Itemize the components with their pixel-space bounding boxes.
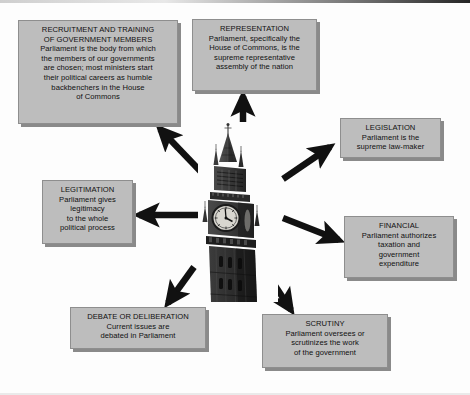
node-heading: RECRUITMENT AND TRAINING OF GOVERNMENT M…	[23, 25, 173, 44]
node-body: Parliament gives legitimacy to the whole…	[47, 195, 128, 233]
node-heading: LEGISLATION	[345, 123, 436, 133]
node-representation[interactable]: REPRESENTATION Parliament, specifically …	[192, 19, 317, 91]
big-ben-clock-tower-photo	[198, 122, 278, 302]
node-heading: FINANCIAL	[349, 221, 449, 231]
arrow-to-financial	[283, 218, 339, 240]
node-body: Parliament is the body from which the me…	[23, 44, 173, 102]
node-scrutiny[interactable]: SCRUTINY Parliament oversees or scrutini…	[262, 314, 388, 368]
node-heading: REPRESENTATION	[197, 24, 312, 34]
node-heading: LEGITIMATION	[47, 185, 128, 195]
node-legislation[interactable]: LEGISLATION Parliament is the supreme la…	[340, 118, 441, 158]
node-body: Parliament, specifically the House of Co…	[197, 34, 312, 72]
node-heading: SCRUTINY	[267, 319, 383, 329]
node-body: Parliament oversees or scrutinizes the w…	[267, 329, 383, 358]
node-body: Parliament is the supreme law-maker	[345, 133, 436, 152]
node-heading: DEBATE OR DELIBERATION	[75, 312, 201, 322]
node-financial[interactable]: FINANCIAL Parliament authorizes taxation…	[344, 216, 454, 278]
node-recruitment-and-training[interactable]: RECRUITMENT AND TRAINING OF GOVERNMENT M…	[18, 20, 178, 124]
arrow-to-legislation	[283, 147, 330, 179]
node-body: Current issues are debated in Parliament	[75, 322, 201, 341]
diagram-canvas: RECRUITMENT AND TRAINING OF GOVERNMENT M…	[0, 0, 470, 395]
node-body: Parliament authorizes taxation and gover…	[349, 231, 449, 269]
scan-edge-artifact-top	[0, 0, 470, 3]
arrow-to-debate	[168, 267, 194, 303]
node-legitimation[interactable]: LEGITIMATION Parliament gives legitimacy…	[42, 180, 133, 244]
node-debate-or-deliberation[interactable]: DEBATE OR DELIBERATION Current issues ar…	[70, 307, 206, 349]
